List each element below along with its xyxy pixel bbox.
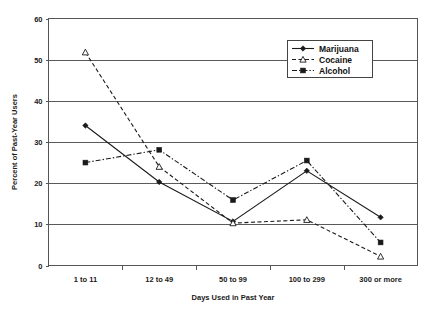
- x-category-label: 1 to 11: [74, 275, 97, 284]
- legend-marker-sample: [301, 68, 306, 73]
- y-tick-label: 40: [34, 97, 42, 106]
- x-category-label: 50 to 99: [219, 275, 247, 284]
- legend-label: Cocaine: [319, 55, 352, 65]
- chart-container: 0102030405060 1 to 1112 to 4950 to 99100…: [0, 0, 436, 317]
- x-category-label: 12 to 49: [145, 275, 173, 284]
- legend-label: Marijuana: [319, 44, 359, 54]
- x-category-label: 300 or more: [359, 275, 402, 284]
- data-point-marker: [378, 240, 383, 245]
- y-tick-label: 60: [34, 15, 42, 24]
- data-point-marker: [231, 198, 236, 203]
- chart-legend: MarijuanaCocaineAlcohol: [288, 41, 373, 78]
- y-tick-label: 20: [34, 179, 42, 188]
- legend-label: Alcohol: [319, 66, 350, 76]
- data-point-marker: [157, 147, 162, 152]
- x-axis-title: Days Used in Past Year: [192, 293, 275, 302]
- y-tick-label: 0: [38, 262, 42, 271]
- y-tick-label: 30: [34, 138, 42, 147]
- x-category-label: 100 to 299: [289, 275, 325, 284]
- y-axis-title: Percent of Past-Year Users: [10, 94, 19, 190]
- data-point-marker: [83, 160, 88, 165]
- y-tick-label: 50: [34, 56, 42, 65]
- y-tick-label: 10: [34, 220, 42, 229]
- data-point-marker: [304, 158, 309, 163]
- line-chart: 0102030405060 1 to 1112 to 4950 to 99100…: [0, 0, 436, 317]
